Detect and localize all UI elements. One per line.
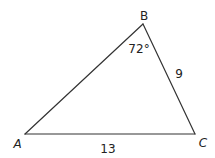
side-ab — [25, 24, 143, 134]
triangle-diagram: B A C 72° 9 13 — [0, 0, 215, 158]
vertex-label-a: A — [12, 137, 21, 151]
triangle-sides — [25, 24, 195, 134]
vertex-label-b: B — [140, 9, 148, 23]
side-label-bc: 9 — [175, 67, 183, 81]
vertex-label-c: C — [199, 136, 208, 150]
side-label-ac: 13 — [100, 142, 115, 156]
side-bc — [143, 24, 195, 134]
angle-label-b: 72° — [128, 42, 149, 56]
